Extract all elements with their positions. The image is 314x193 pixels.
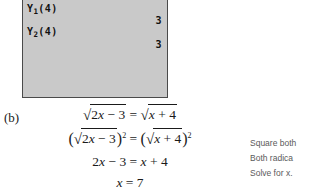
annotation-column: Square both Both radica Solve for x. — [250, 136, 314, 181]
radicand-right-1: x + 4 — [148, 104, 177, 126]
annotation-line-1: Square both — [250, 136, 314, 151]
radicand-right-2: x + 4 — [153, 128, 182, 150]
calc-expression-row-2: Y2(4) — [27, 26, 58, 39]
radicand-rest: + 4 — [160, 131, 181, 146]
radical-right-2: √x + 4 — [146, 128, 182, 151]
calc-result-row-2: 3 — [156, 39, 162, 50]
radical-left-2: √2x − 3 — [74, 128, 117, 151]
equation-line-4: x = 7 — [40, 173, 220, 193]
radical-right-1: √x + 4 — [141, 104, 177, 127]
variable: x — [116, 175, 122, 190]
radicand-left-2: 2x − 3 — [81, 128, 117, 150]
exponent-left-2: 2 — [122, 131, 126, 140]
relation-2: = — [130, 131, 138, 146]
solution-value: 7 — [137, 175, 144, 190]
coefficient: 2 — [82, 131, 89, 146]
equation-line-2: (√2x − 3)2 = (√x + 4)2 — [40, 127, 220, 152]
calc-expression-tail-1: (4) — [38, 3, 57, 14]
radicand-left-1: 2x − 3 — [90, 104, 126, 126]
part-label: (b) — [4, 110, 19, 126]
radicand-rest: + 4 — [155, 107, 176, 122]
exponent-right-2: 2 — [188, 131, 192, 140]
equation-line-1: √2x − 3 = √x + 4 — [40, 104, 220, 127]
equation-line-3: 2x − 3 = x + 4 — [40, 152, 220, 173]
relation-3: = — [130, 154, 138, 169]
calc-result-row-1: 3 — [156, 15, 162, 26]
radicand-rest: − 3 — [104, 107, 125, 122]
radicand-rest: − 3 — [95, 131, 116, 146]
annotation-line-3: Solve for x. — [250, 166, 314, 181]
calc-expression-tail-2: (4) — [38, 26, 57, 37]
rhs-rest: + 4 — [147, 154, 168, 169]
calculator-screen: Y1(4) 3 Y2(4) 3 — [22, 0, 168, 98]
relation-1: = — [130, 107, 138, 122]
annotation-line-2: Both radica — [250, 151, 314, 166]
relation-4: = — [126, 175, 134, 190]
equation-stack: √2x − 3 = √x + 4 (√2x − 3)2 = (√x + 4)2 … — [40, 104, 220, 193]
radical-left-1: √2x − 3 — [83, 104, 126, 127]
lhs-rest: − 3 — [105, 154, 126, 169]
calc-expression-row-1: Y1(4) — [27, 3, 58, 16]
